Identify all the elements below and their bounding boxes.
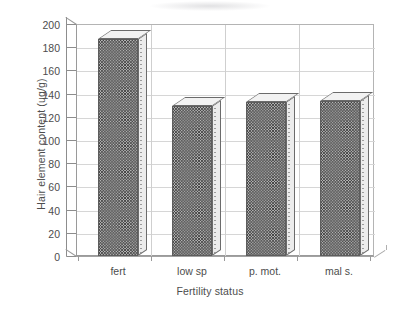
- y-tick-label-140: 140: [28, 90, 60, 100]
- y-axis-line: [66, 17, 67, 256]
- x-axis-line: [66, 256, 374, 257]
- y-tick-label-60: 60: [28, 182, 60, 192]
- bar-p-mot-front: [246, 102, 286, 256]
- scan-artifact-smudge: [150, 1, 270, 11]
- gridline-category-2: [225, 25, 226, 257]
- y-tick-mark-200: [67, 24, 76, 25]
- gridline-category-1: [151, 25, 152, 257]
- axis-depth-right: [374, 249, 387, 258]
- y-tick-mark-60: [67, 186, 76, 187]
- y-tick-label-20: 20: [28, 229, 60, 239]
- bar-p-mot[interactable]: [246, 93, 286, 256]
- y-tick-label-80: 80: [28, 159, 60, 169]
- y-tick-mark-40: [67, 210, 76, 211]
- y-tick-mark-180: [67, 47, 76, 48]
- y-tick-mark-140: [67, 94, 76, 95]
- y-tick-label-120: 120: [28, 113, 60, 123]
- bar-mal-s-front: [320, 101, 360, 256]
- y-tick-label-160: 160: [28, 66, 60, 76]
- y-tick-mark-80: [67, 163, 76, 164]
- bar-low-sp-front: [172, 106, 212, 256]
- bar-p-mot-side: [286, 96, 295, 256]
- bar-chart-figure: Hair element content (ug/g) Fertility st…: [0, 0, 394, 309]
- y-tick-label-40: 40: [28, 206, 60, 216]
- y-tick-label-200: 200: [28, 20, 60, 30]
- x-tick-label-low-sp: low sp: [158, 265, 226, 277]
- x-tick-mark-0: [78, 256, 79, 261]
- x-axis-title: Fertility status: [60, 285, 360, 297]
- x-tick-mark-4: [370, 256, 371, 261]
- bar-mal-s-side: [360, 95, 369, 256]
- y-tick-mark-20: [67, 233, 76, 234]
- x-tick-mark-1: [151, 256, 152, 261]
- bar-fert-side: [138, 33, 147, 256]
- bar-low-sp[interactable]: [172, 97, 212, 256]
- x-tick-mark-3: [297, 256, 298, 261]
- x-tick-mark-2: [224, 256, 225, 261]
- y-tick-label-0: 0: [28, 252, 60, 262]
- x-tick-label-fert: fert: [84, 265, 152, 277]
- axis-right-edge: [386, 245, 387, 250]
- gridline-category-3: [299, 25, 300, 257]
- x-tick-label-p-mot: p. mot.: [231, 265, 299, 277]
- y-tick-mark-120: [67, 117, 76, 118]
- y-tick-mark-0: [67, 256, 76, 257]
- bar-mal-s[interactable]: [320, 92, 360, 256]
- bar-low-sp-side: [212, 100, 221, 256]
- y-tick-mark-160: [67, 70, 76, 71]
- bar-fert[interactable]: [98, 30, 138, 256]
- bar-fert-front: [98, 39, 138, 256]
- x-tick-label-mal-s: mal s.: [305, 265, 373, 277]
- y-tick-label-180: 180: [28, 43, 60, 53]
- y-tick-label-100: 100: [28, 136, 60, 146]
- y-tick-mark-100: [67, 140, 76, 141]
